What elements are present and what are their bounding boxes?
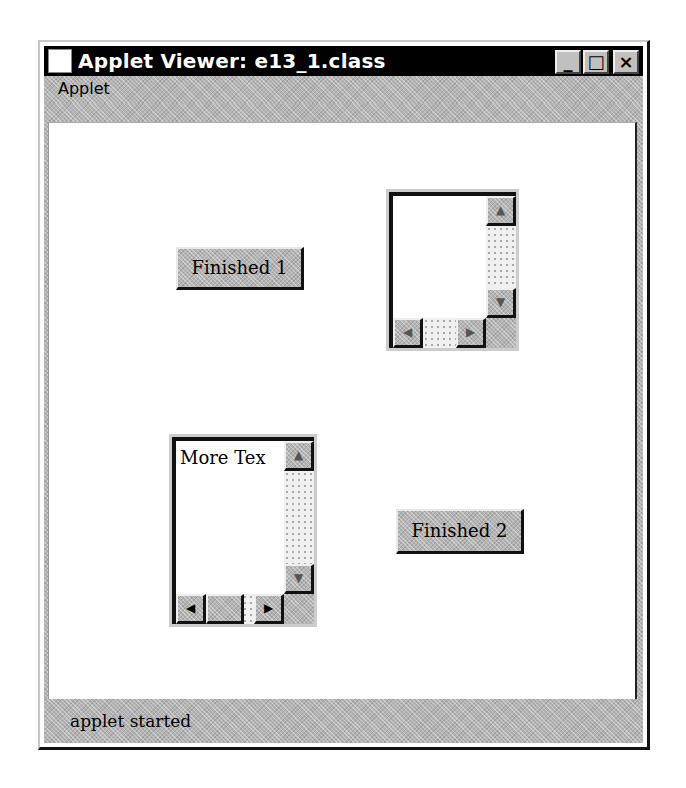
text-area-2: More Tex ▲ ▼ ◀ ▶	[169, 434, 317, 627]
close-icon: ×	[618, 51, 633, 72]
menu-bar: Applet	[44, 76, 643, 104]
scrollbar-corner	[486, 318, 516, 348]
arrow-down-icon: ▼	[496, 295, 505, 309]
title-bar[interactable]: Applet Viewer: e13_1.class _ □ ×	[44, 46, 643, 76]
text-area-1-body[interactable]: ▲ ▼ ◀ ▶	[389, 192, 516, 348]
minimize-button[interactable]: _	[555, 50, 581, 74]
scroll-right-button[interactable]: ▶	[254, 594, 284, 624]
text-area-1: ▲ ▼ ◀ ▶	[386, 189, 519, 351]
content-frame: Finished 1 ▲ ▼ ◀ ▶	[44, 104, 643, 699]
text-area-1-horizontal-scrollbar[interactable]: ◀ ▶	[393, 318, 486, 348]
arrow-down-icon: ▼	[294, 571, 303, 585]
window-title: Applet Viewer: e13_1.class	[78, 48, 386, 74]
arrow-right-icon: ▶	[466, 325, 475, 339]
scroll-down-button[interactable]: ▼	[486, 288, 516, 318]
arrow-up-icon: ▲	[496, 203, 505, 217]
scroll-up-button[interactable]: ▲	[486, 196, 516, 226]
arrow-left-icon: ◀	[403, 325, 412, 339]
finished-2-button[interactable]: Finished 2	[396, 509, 524, 554]
finished-2-label: Finished 2	[412, 520, 508, 541]
text-area-2-content: More Tex	[180, 447, 280, 468]
minimize-icon: _	[564, 51, 573, 72]
scroll-right-button[interactable]: ▶	[456, 318, 486, 348]
scroll-down-button[interactable]: ▼	[284, 564, 314, 594]
arrow-up-icon: ▲	[294, 448, 303, 462]
maximize-button[interactable]: □	[583, 50, 609, 74]
scrollbar-corner	[284, 594, 314, 624]
maximize-icon: □	[587, 51, 604, 72]
text-area-1-vertical-scrollbar[interactable]: ▲ ▼	[486, 196, 516, 318]
text-area-2-horizontal-scrollbar[interactable]: ◀ ▶	[176, 594, 284, 624]
scroll-left-button[interactable]: ◀	[176, 594, 206, 624]
scroll-up-button[interactable]: ▲	[284, 441, 314, 471]
menu-applet[interactable]: Applet	[58, 78, 110, 100]
close-button[interactable]: ×	[613, 50, 639, 74]
arrow-left-icon: ◀	[186, 601, 195, 615]
applet-viewer-window: Applet Viewer: e13_1.class _ □ × Applet …	[38, 40, 650, 750]
scroll-left-button[interactable]: ◀	[393, 318, 423, 348]
status-bar: applet started	[44, 699, 643, 743]
applet-panel: Finished 1 ▲ ▼ ◀ ▶	[48, 122, 637, 699]
finished-1-button[interactable]: Finished 1	[176, 247, 304, 290]
arrow-right-icon: ▶	[264, 601, 273, 615]
horizontal-scroll-thumb[interactable]	[206, 594, 244, 624]
text-area-2-vertical-scrollbar[interactable]: ▲ ▼	[284, 441, 314, 594]
finished-1-label: Finished 1	[192, 257, 288, 278]
text-area-2-body[interactable]: More Tex ▲ ▼ ◀ ▶	[172, 437, 314, 624]
java-app-icon[interactable]	[48, 49, 72, 73]
status-text: applet started	[70, 709, 191, 733]
